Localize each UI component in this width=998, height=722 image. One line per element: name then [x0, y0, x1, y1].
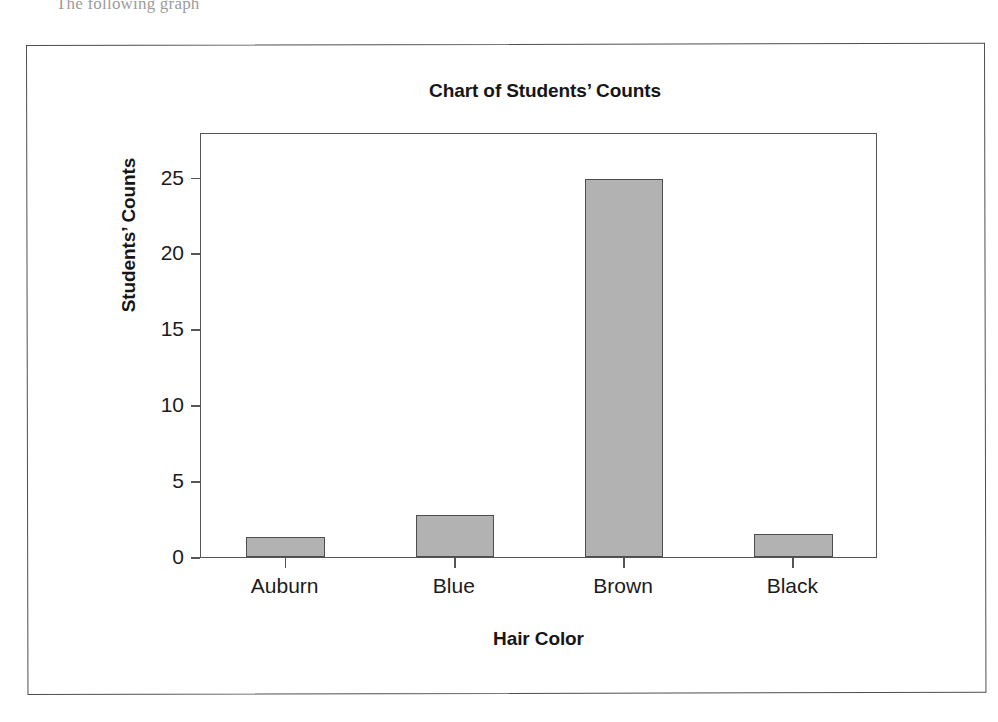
y-tick-mark — [191, 481, 200, 483]
y-tick-label: 5 — [172, 468, 184, 494]
y-tick-label: 25 — [161, 165, 184, 191]
y-tick-mark — [191, 557, 200, 559]
y-axis-title: Students’ Counts — [118, 115, 140, 355]
y-tick-mark — [191, 178, 200, 180]
y-tick-label: 10 — [161, 392, 184, 418]
x-tick-label-auburn: Auburn — [251, 574, 319, 598]
chart-title: Chart of Students’ Counts — [0, 80, 998, 102]
y-tick-mark — [191, 253, 200, 255]
bar-black — [754, 534, 833, 557]
bar-brown — [585, 179, 664, 557]
x-axis-title: Hair Color — [200, 628, 877, 650]
x-tick-mark-black — [792, 558, 794, 568]
x-tick-label-brown: Brown — [593, 574, 653, 598]
y-tick-label: 0 — [172, 544, 184, 570]
plot-frame — [200, 133, 877, 558]
x-tick-mark-brown — [623, 558, 625, 568]
bar-auburn — [246, 537, 325, 557]
plot-area — [201, 134, 876, 557]
x-tick-mark-blue — [454, 558, 456, 568]
y-tick-label: 20 — [161, 240, 184, 266]
x-tick-mark-auburn — [285, 558, 287, 568]
y-tick-label: 15 — [161, 316, 184, 342]
bar-chart: Chart of Students’ Counts Students’ Coun… — [0, 0, 998, 722]
x-tick-label-black: Black — [767, 574, 818, 598]
y-tick-mark — [191, 405, 200, 407]
x-tick-label-blue: Blue — [433, 574, 475, 598]
bar-blue — [416, 515, 495, 558]
y-tick-mark — [191, 329, 200, 331]
